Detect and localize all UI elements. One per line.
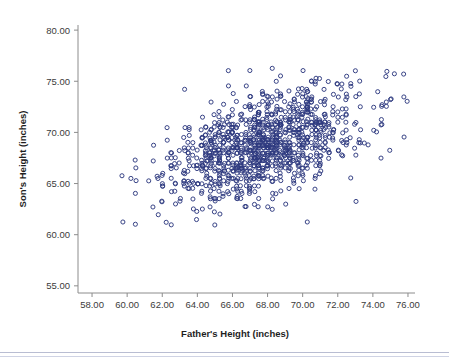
data-point <box>362 141 366 145</box>
data-point <box>222 102 226 106</box>
data-point <box>217 109 221 113</box>
data-point <box>222 179 226 183</box>
y-tick-label: 55.00 <box>46 280 70 291</box>
data-point <box>121 220 125 224</box>
data-point <box>341 131 345 135</box>
data-point <box>296 92 300 96</box>
data-point <box>177 161 181 165</box>
data-point <box>336 95 340 99</box>
data-point <box>243 143 247 147</box>
data-point <box>152 143 156 147</box>
y-tick-label: 75.00 <box>46 76 70 87</box>
data-point <box>336 110 340 114</box>
footer-rule-secondary <box>0 356 449 357</box>
data-point <box>253 190 257 194</box>
data-point <box>279 179 283 183</box>
data-point <box>234 99 238 103</box>
data-point <box>292 143 296 147</box>
data-point <box>169 223 173 227</box>
data-point <box>282 100 286 104</box>
data-point <box>178 199 182 203</box>
data-point <box>183 126 187 130</box>
data-point <box>147 179 151 183</box>
data-point <box>402 72 406 76</box>
data-point <box>191 141 195 145</box>
data-point <box>169 176 173 180</box>
data-point <box>354 153 358 157</box>
data-point <box>252 184 256 188</box>
data-point <box>199 128 203 132</box>
data-point <box>230 108 234 112</box>
data-point <box>195 156 199 160</box>
data-point <box>301 179 305 183</box>
x-tick-label: 60.00 <box>115 299 139 310</box>
data-point <box>270 207 274 211</box>
data-point <box>191 197 195 201</box>
data-point <box>217 189 221 193</box>
x-tick-label: 64.00 <box>185 299 209 310</box>
data-point <box>212 113 216 117</box>
data-point <box>169 167 173 171</box>
data-point <box>379 118 383 122</box>
x-tick-label: 66.00 <box>221 299 245 310</box>
data-point <box>191 153 195 157</box>
data-point <box>388 148 392 152</box>
data-point <box>165 138 169 142</box>
data-point <box>310 128 314 132</box>
data-point <box>269 100 273 104</box>
data-point <box>327 156 331 160</box>
data-point <box>405 99 409 103</box>
data-point <box>318 140 322 144</box>
data-point <box>379 156 383 160</box>
data-point <box>187 164 191 168</box>
data-point <box>376 90 380 94</box>
y-axis-ticks: 55.0060.0065.0070.0075.0080.00 <box>46 25 78 292</box>
data-point <box>231 153 235 157</box>
data-point <box>274 176 278 180</box>
data-point <box>296 174 300 178</box>
data-point <box>358 105 362 109</box>
data-point <box>156 213 160 217</box>
data-point <box>270 95 274 99</box>
data-point <box>288 110 292 114</box>
data-point <box>288 135 292 139</box>
x-tick-label: 74.00 <box>361 299 385 310</box>
data-point <box>243 105 247 109</box>
data-point <box>310 132 314 136</box>
data-point <box>287 186 291 190</box>
data-point <box>252 105 256 109</box>
y-tick-label: 60.00 <box>46 229 70 240</box>
data-point <box>212 186 216 190</box>
data-point <box>217 115 221 119</box>
data-point <box>212 210 216 214</box>
data-point <box>340 115 344 119</box>
data-point <box>279 115 283 119</box>
data-point <box>209 161 213 165</box>
y-tick-label: 65.00 <box>46 178 70 189</box>
data-point <box>402 135 406 139</box>
data-point <box>230 113 234 117</box>
data-point <box>213 223 217 227</box>
data-point <box>309 153 313 157</box>
data-point <box>151 159 155 163</box>
data-point <box>266 205 270 209</box>
plot-canvas: 55.0060.0065.0070.0075.0080.00 58.0060.0… <box>0 0 449 361</box>
data-point <box>209 100 213 104</box>
data-point <box>169 156 173 160</box>
data-point <box>218 212 222 216</box>
data-point <box>384 74 388 78</box>
data-point <box>165 156 169 160</box>
data-point <box>252 202 256 206</box>
data-point <box>187 133 191 137</box>
data-point <box>354 95 358 99</box>
data-point <box>221 194 225 198</box>
data-point <box>165 126 169 130</box>
data-point <box>186 146 190 150</box>
data-point <box>187 159 191 163</box>
x-axis-ticks: 58.0060.0062.0064.0066.0068.0070.0072.00… <box>80 293 420 310</box>
data-point <box>275 97 279 101</box>
data-point <box>283 110 287 114</box>
data-points-layer <box>120 66 409 227</box>
data-point <box>221 118 225 122</box>
data-point <box>182 135 186 139</box>
